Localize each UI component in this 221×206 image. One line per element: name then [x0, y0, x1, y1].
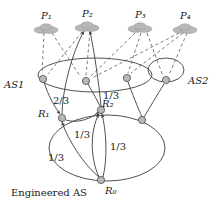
node-right-low[interactable]: [138, 116, 145, 123]
edge-as2-rightlow: [144, 84, 164, 117]
cloud-p1: [34, 24, 58, 34]
cloud-p3: [128, 23, 152, 33]
node-r0[interactable]: [97, 176, 104, 183]
dashed-link-p1-as1mid: [52, 33, 80, 76]
node-label-r0: R₀: [104, 185, 117, 196]
node-as1-right[interactable]: [123, 74, 130, 81]
node-as2[interactable]: [162, 76, 169, 83]
dashed-link-p4-as1mid: [92, 33, 179, 78]
edge-weight-r1-as1: 2/3: [53, 95, 69, 106]
edge-r2-p2: [90, 31, 101, 106]
edge-weight-r0-r2: 1/3: [110, 141, 126, 152]
node-r1[interactable]: [58, 114, 65, 121]
edge-weight-r2-as1: 1/3: [103, 90, 119, 101]
cloud-p4: [173, 24, 197, 34]
edge-weight-labels: 2/3 1/3 1/3 1/3 1/3: [48, 90, 126, 163]
diagram-canvas: P₁ P₂ P₃ P₄ AS1 AS2 Engineered AS R₁ R₂ …: [0, 0, 221, 206]
node-as1-left[interactable]: [39, 75, 46, 82]
edge-r1-as1mid: [66, 112, 99, 121]
domain-label-engineered-as: Engineered AS: [11, 187, 87, 198]
dashed-peer-links: [42, 32, 187, 78]
edge-weight-r0-r1: 1/3: [48, 152, 64, 163]
dashed-link-p2-as1mid: [86, 32, 90, 76]
as1-ellipse: [38, 58, 152, 92]
node-as1-mid[interactable]: [82, 77, 89, 84]
peer-label-p2: P₂: [81, 8, 93, 19]
peer-label-p3: P₃: [134, 9, 146, 20]
dashed-link-p3-as1right: [128, 33, 141, 73]
peer-clouds: [34, 22, 197, 34]
peer-label-p4: P₄: [179, 10, 191, 21]
node-label-r1: R₁: [37, 108, 50, 119]
domain-label-as2: AS2: [187, 75, 208, 86]
edge-r0-r2-b: [102, 114, 106, 177]
edge-weight-r0-mid: 1/3: [74, 129, 90, 140]
peer-labels: P₁ P₂ P₃ P₄: [40, 8, 191, 21]
cloud-p2: [75, 22, 99, 32]
domain-label-as1: AS1: [3, 79, 24, 90]
network-diagram: P₁ P₂ P₃ P₄ AS1 AS2 Engineered AS R₁ R₂ …: [0, 0, 221, 206]
peer-label-p1: P₁: [40, 10, 52, 21]
edge-r0-r2-a: [92, 114, 99, 177]
engineered-as-ellipse: [49, 115, 165, 181]
